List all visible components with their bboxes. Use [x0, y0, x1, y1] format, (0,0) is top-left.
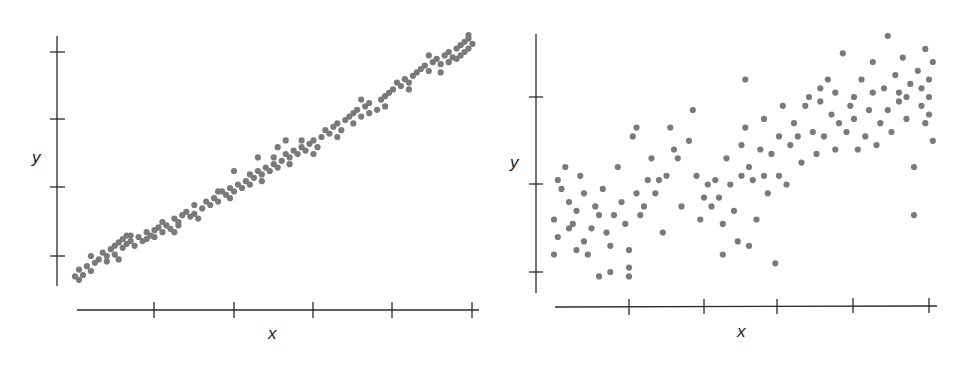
data-point — [896, 90, 902, 96]
data-point — [469, 41, 475, 47]
data-point — [693, 173, 699, 179]
data-point — [622, 221, 628, 227]
data-point — [810, 129, 816, 135]
data-point — [633, 125, 639, 131]
data-point — [358, 97, 364, 103]
data-point — [446, 59, 452, 65]
data-point — [128, 238, 134, 244]
data-point — [802, 103, 808, 109]
data-point — [438, 69, 444, 75]
data-point — [354, 107, 360, 113]
data-point — [765, 190, 771, 196]
data-point — [215, 188, 221, 194]
data-point — [930, 59, 936, 65]
data-point — [366, 100, 372, 106]
data-point — [918, 85, 924, 91]
data-point — [663, 173, 669, 179]
data-point — [832, 146, 838, 152]
data-point — [326, 131, 332, 137]
data-point — [761, 116, 767, 122]
data-point — [279, 158, 285, 164]
data-point — [671, 146, 677, 152]
data-point — [761, 173, 767, 179]
data-point — [735, 238, 741, 244]
data-point — [267, 168, 273, 174]
scatter-plots: y x y x — [0, 0, 965, 372]
data-point — [697, 216, 703, 222]
data-point — [231, 188, 237, 194]
data-point — [132, 243, 138, 249]
data-point — [558, 186, 564, 192]
data-point — [926, 76, 932, 82]
data-point — [817, 85, 823, 91]
data-point — [390, 86, 396, 92]
data-point — [851, 116, 857, 122]
data-point — [446, 49, 452, 55]
data-point — [795, 133, 801, 139]
data-point — [866, 107, 872, 113]
data-point — [787, 142, 793, 148]
data-point — [207, 202, 213, 208]
data-point — [155, 224, 161, 230]
data-point — [888, 129, 894, 135]
data-point — [299, 137, 305, 143]
data-point — [637, 212, 643, 218]
data-point — [817, 98, 823, 104]
data-point — [581, 238, 587, 244]
data-point — [438, 61, 444, 67]
data-point — [768, 151, 774, 157]
data-point — [840, 50, 846, 56]
data-point — [406, 80, 412, 86]
data-point — [275, 165, 281, 171]
right-x-label: x — [736, 322, 746, 341]
data-point — [648, 155, 654, 161]
data-point — [780, 103, 786, 109]
data-point — [588, 225, 594, 231]
data-point — [374, 107, 380, 113]
data-point — [88, 268, 94, 274]
data-point — [720, 221, 726, 227]
data-point — [903, 94, 909, 100]
data-point — [746, 243, 752, 249]
data-point — [720, 251, 726, 257]
data-point — [585, 251, 591, 257]
data-point — [870, 59, 876, 65]
data-point — [566, 225, 572, 231]
data-point — [314, 144, 320, 150]
data-point — [465, 46, 471, 52]
data-point — [551, 251, 557, 257]
data-point — [731, 208, 737, 214]
data-point — [656, 177, 662, 183]
data-point — [112, 252, 118, 258]
data-point — [183, 209, 189, 215]
data-point — [195, 216, 201, 222]
data-point — [742, 125, 748, 131]
data-point — [84, 263, 90, 269]
data-point — [426, 52, 432, 58]
data-point — [896, 98, 902, 104]
data-point — [791, 120, 797, 126]
data-point — [742, 76, 748, 82]
data-point — [630, 133, 636, 139]
data-point — [88, 253, 94, 259]
data-point — [626, 265, 632, 271]
data-point — [566, 199, 572, 205]
left-data-points — [72, 32, 476, 283]
data-point — [175, 222, 181, 228]
data-point — [825, 76, 831, 82]
data-point — [798, 160, 804, 166]
data-point — [757, 146, 763, 152]
data-point — [215, 199, 221, 205]
data-point — [870, 90, 876, 96]
data-point — [607, 269, 613, 275]
data-point — [104, 258, 110, 264]
left-x-label: x — [267, 324, 277, 343]
data-point — [310, 137, 316, 143]
data-point — [275, 144, 281, 150]
data-point — [633, 190, 639, 196]
data-point — [686, 138, 692, 144]
data-point — [930, 138, 936, 144]
data-point — [660, 230, 666, 236]
data-point — [562, 164, 568, 170]
data-point — [877, 120, 883, 126]
